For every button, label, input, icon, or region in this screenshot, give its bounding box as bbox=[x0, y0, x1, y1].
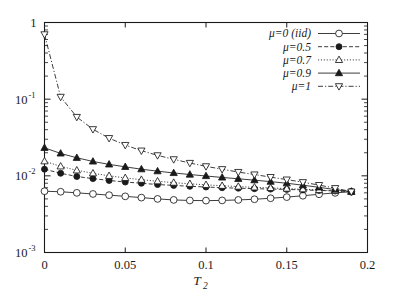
chart-canvas: 00.050.10.150.2 10-310-210-11 T 2 μ=0 (i… bbox=[0, 0, 394, 308]
y-tick-label: 10-1 bbox=[15, 90, 36, 107]
data-point-marker bbox=[186, 180, 193, 186]
series-0 bbox=[41, 188, 355, 204]
x-tick-label: 0.15 bbox=[276, 258, 298, 272]
data-point-marker bbox=[154, 196, 161, 203]
data-point-marker bbox=[73, 114, 80, 120]
legend-item-0: μ=0 (iid) bbox=[268, 27, 360, 40]
series-2 bbox=[41, 157, 355, 194]
x-tick-label: 0.2 bbox=[360, 258, 376, 272]
series-3 bbox=[41, 144, 355, 194]
x-tick-label: 0.1 bbox=[198, 258, 214, 272]
x-axis-ticks bbox=[45, 23, 368, 253]
data-point-marker bbox=[251, 196, 258, 203]
data-point-marker bbox=[300, 192, 307, 199]
legend-label: μ=0 (iid) bbox=[268, 27, 311, 40]
legend-label: μ=0.7 bbox=[282, 54, 312, 67]
data-point-marker bbox=[74, 174, 80, 180]
data-point-marker bbox=[138, 194, 145, 201]
svg-text:T: T bbox=[193, 273, 202, 288]
y-axis-ticks bbox=[45, 23, 368, 253]
legend-marker-sample bbox=[335, 56, 342, 62]
svg-text:10: 10 bbox=[15, 169, 28, 183]
data-point-marker bbox=[57, 163, 64, 169]
legend-label: μ=1 bbox=[291, 80, 311, 93]
legend-label: μ=0.5 bbox=[282, 41, 311, 54]
data-point-marker bbox=[73, 167, 80, 173]
x-tick-label: 0.05 bbox=[114, 258, 136, 272]
legend-marker-sample bbox=[335, 84, 342, 90]
data-point-marker bbox=[154, 153, 161, 159]
x-axis-title: T 2 bbox=[193, 273, 208, 291]
data-point-marker bbox=[202, 164, 209, 170]
data-point-marker bbox=[170, 179, 177, 185]
data-point-marker bbox=[73, 189, 80, 196]
data-point-marker bbox=[106, 172, 113, 178]
data-point-marker bbox=[57, 188, 64, 195]
data-point-marker bbox=[89, 127, 96, 133]
legend: μ=0 (iid)μ=0.5μ=0.7μ=0.9μ=1 bbox=[268, 27, 360, 93]
y-tick-label: 1 bbox=[30, 16, 36, 30]
y-tick-label: 10-3 bbox=[15, 243, 36, 260]
y-tick-label: 10-2 bbox=[15, 166, 36, 183]
data-point-marker bbox=[219, 182, 226, 188]
svg-text:10: 10 bbox=[15, 246, 28, 260]
data-point-marker bbox=[283, 177, 290, 183]
data-point-marker bbox=[58, 170, 64, 176]
data-point-marker bbox=[154, 177, 161, 183]
svg-text:-3: -3 bbox=[29, 243, 36, 253]
svg-text:10: 10 bbox=[15, 93, 28, 107]
data-point-marker bbox=[219, 197, 226, 204]
data-point-marker bbox=[90, 191, 97, 198]
svg-text:-2: -2 bbox=[29, 166, 36, 176]
data-point-marker bbox=[267, 195, 274, 202]
legend-marker-sample bbox=[336, 44, 342, 50]
legend-item-3: μ=0.9 bbox=[282, 67, 360, 80]
data-point-marker bbox=[251, 172, 258, 178]
data-point-marker bbox=[235, 197, 242, 204]
data-point-marker bbox=[106, 192, 113, 199]
legend-label: μ=0.9 bbox=[282, 67, 311, 80]
svg-text:2: 2 bbox=[203, 281, 208, 291]
figure-container: 00.050.10.150.2 10-310-210-11 T 2 μ=0 (i… bbox=[0, 0, 394, 308]
data-point-marker bbox=[186, 197, 193, 204]
x-tick-label: 0 bbox=[41, 258, 47, 272]
legend-marker-sample bbox=[336, 30, 343, 37]
data-point-marker bbox=[283, 194, 290, 201]
data-point-marker bbox=[202, 181, 209, 187]
legend-item-2: μ=0.7 bbox=[282, 54, 360, 67]
data-point-marker bbox=[106, 136, 113, 142]
data-point-marker bbox=[122, 174, 129, 180]
legend-marker-sample bbox=[335, 69, 342, 75]
legend-item-4: μ=1 bbox=[291, 80, 360, 93]
data-point-marker bbox=[90, 176, 96, 182]
x-axis-tick-labels: 00.050.10.150.2 bbox=[41, 258, 375, 272]
data-point-marker bbox=[41, 157, 48, 163]
data-point-marker bbox=[122, 193, 129, 200]
data-point-marker bbox=[170, 197, 177, 204]
data-point-marker bbox=[41, 32, 48, 38]
svg-text:-1: -1 bbox=[29, 90, 36, 100]
plot-frame bbox=[45, 23, 368, 253]
svg-text:1: 1 bbox=[30, 16, 36, 30]
data-point-marker bbox=[170, 157, 177, 163]
data-point-marker bbox=[203, 197, 210, 204]
series-1 bbox=[42, 166, 355, 194]
legend-item-1: μ=0.5 bbox=[282, 41, 360, 54]
data-point-marker bbox=[41, 188, 48, 195]
data-point-marker bbox=[122, 142, 129, 148]
y-axis-tick-labels: 10-310-210-11 bbox=[15, 16, 37, 260]
data-point-marker bbox=[42, 166, 48, 172]
data-point-marker bbox=[41, 144, 48, 150]
